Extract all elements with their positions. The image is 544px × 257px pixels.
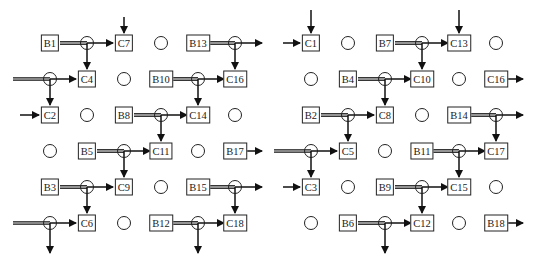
junction-circle-icon: [378, 72, 392, 86]
node-b11: B11: [410, 143, 433, 160]
node-b7: B7: [376, 35, 394, 52]
empty-circle-icon: [117, 216, 131, 230]
node-c14: C14: [186, 107, 210, 124]
junction-circle-icon: [43, 72, 57, 86]
channel-assignment-diagram: B1C7B13C4B10C16C2B8C14B5C11B17B3C9B15C6B…: [0, 0, 544, 257]
empty-circle-icon: [304, 72, 318, 86]
node-b15: B15: [186, 179, 210, 196]
node-b17: B17: [223, 143, 247, 160]
empty-circle-icon: [304, 216, 318, 230]
junction-circle-icon: [415, 36, 429, 50]
junction-circle-icon: [228, 36, 242, 50]
node-b4: B4: [339, 71, 357, 88]
empty-circle-icon: [228, 108, 242, 122]
junction-circle-icon: [191, 72, 205, 86]
node-c7: C7: [115, 35, 133, 52]
node-c17: C17: [484, 143, 508, 160]
node-c16: C16: [484, 71, 508, 88]
empty-circle-icon: [43, 144, 57, 158]
node-b10: B10: [149, 71, 173, 88]
junction-circle-icon: [415, 180, 429, 194]
node-c8: C8: [376, 107, 394, 124]
node-b6: B6: [339, 215, 357, 232]
node-b2: B2: [302, 107, 320, 124]
junction-circle-icon: [191, 216, 205, 230]
empty-circle-icon: [415, 108, 429, 122]
junction-circle-icon: [304, 144, 318, 158]
node-b18: B18: [484, 215, 508, 232]
node-b12: B12: [149, 215, 173, 232]
junction-circle-icon: [489, 108, 503, 122]
node-b14: B14: [447, 107, 471, 124]
junction-circle-icon: [80, 180, 94, 194]
node-b3: B3: [41, 179, 59, 196]
empty-circle-icon: [378, 144, 392, 158]
node-c5: C5: [339, 143, 357, 160]
empty-circle-icon: [191, 144, 205, 158]
node-c11: C11: [149, 143, 172, 160]
node-b1: B1: [41, 35, 59, 52]
empty-circle-icon: [341, 36, 355, 50]
empty-circle-icon: [489, 36, 503, 50]
node-c18: C18: [223, 215, 247, 232]
empty-circle-icon: [154, 36, 168, 50]
node-b8: B8: [115, 107, 133, 124]
node-c9: C9: [115, 179, 133, 196]
junction-circle-icon: [117, 144, 131, 158]
node-b5: B5: [78, 143, 96, 160]
node-c16: C16: [223, 71, 247, 88]
node-c10: C10: [410, 71, 434, 88]
empty-circle-icon: [489, 180, 503, 194]
node-c1: C1: [302, 35, 320, 52]
junction-circle-icon: [341, 108, 355, 122]
empty-circle-icon: [452, 216, 466, 230]
node-c4: C4: [78, 71, 96, 88]
node-c3: C3: [302, 179, 320, 196]
empty-circle-icon: [80, 108, 94, 122]
node-b9: B9: [376, 179, 394, 196]
node-c2: C2: [41, 107, 59, 124]
node-b13: B13: [186, 35, 210, 52]
empty-circle-icon: [154, 180, 168, 194]
junction-circle-icon: [80, 36, 94, 50]
node-c6: C6: [78, 215, 96, 232]
node-c15: C15: [447, 179, 471, 196]
junction-circle-icon: [154, 108, 168, 122]
empty-circle-icon: [341, 180, 355, 194]
empty-circle-icon: [452, 72, 466, 86]
junction-circle-icon: [452, 144, 466, 158]
empty-circle-icon: [117, 72, 131, 86]
junction-circle-icon: [43, 216, 57, 230]
node-c12: C12: [410, 215, 434, 232]
junction-circle-icon: [228, 180, 242, 194]
junction-circle-icon: [378, 216, 392, 230]
node-c13: C13: [447, 35, 471, 52]
